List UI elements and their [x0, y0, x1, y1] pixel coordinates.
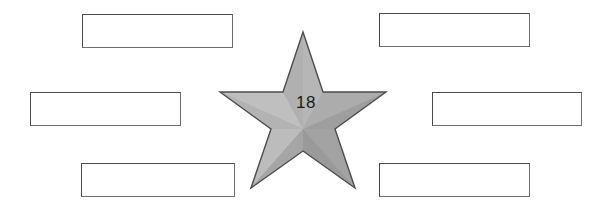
center-star: 18: [222, 26, 392, 186]
answer-box-middle-left[interactable]: [30, 92, 181, 126]
worksheet-canvas: 18: [0, 0, 611, 216]
answer-box-top-left[interactable]: [82, 14, 233, 48]
answer-box-middle-right[interactable]: [432, 92, 582, 126]
answer-box-bottom-right[interactable]: [379, 163, 530, 197]
answer-box-top-right[interactable]: [379, 13, 530, 47]
answer-box-bottom-left[interactable]: [81, 163, 235, 197]
